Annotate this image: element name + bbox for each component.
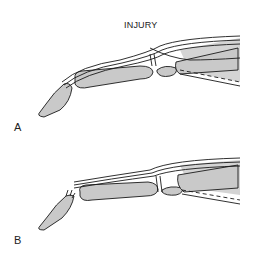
panel-a-finger: [39, 36, 240, 117]
finger-illustration: [0, 0, 254, 256]
panel-b-finger: [39, 158, 240, 230]
